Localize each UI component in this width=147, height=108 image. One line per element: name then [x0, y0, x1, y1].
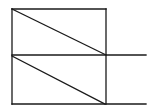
lower-diagonal [12, 56, 105, 104]
diagram-lines [12, 9, 146, 104]
diagram-canvas [0, 0, 147, 108]
upper-diagonal [12, 9, 106, 55]
